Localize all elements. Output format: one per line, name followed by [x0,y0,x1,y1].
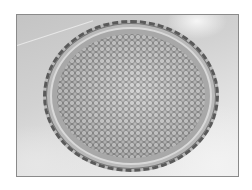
tart-pan [43,20,219,172]
tart-pan-rim [50,27,212,165]
pie-weight-beans [57,34,205,158]
beans-shading [57,34,205,158]
photo [16,14,239,177]
